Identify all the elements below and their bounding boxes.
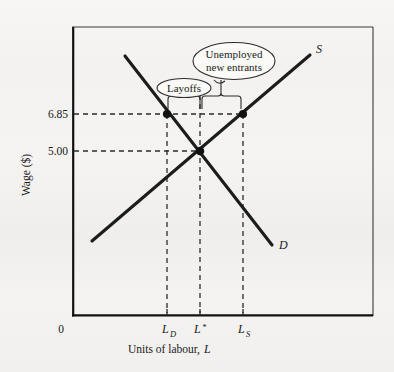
demand-curve-label: D xyxy=(278,238,288,252)
x-axis-title: Units of labour, L xyxy=(128,342,211,356)
point-supply xyxy=(239,110,247,118)
x-tick-label-ld-base: L xyxy=(161,322,169,336)
origin-label: 0 xyxy=(58,323,64,335)
x-tick-label-ls-base: L xyxy=(237,322,245,336)
callout-unemployed-line1: Unemployed xyxy=(206,48,263,60)
x-tick-label-lstar-base: L xyxy=(193,322,201,336)
y-axis-title: Wage ($) xyxy=(20,154,33,196)
x-tick-label-lstar-sub: * xyxy=(202,322,207,332)
callout-layoffs-text: Layoffs xyxy=(167,82,201,94)
callout-unemployed-line2: new entrants xyxy=(206,61,262,73)
point-equilibrium xyxy=(196,147,205,156)
x-tick-label-ld-sub: D xyxy=(169,329,177,339)
x-tick-label-ls: L S xyxy=(237,322,251,339)
y-tick-label-500: 5.00 xyxy=(48,145,68,157)
supply-demand-chart: Layoffs Unemployed new entrants S D 6.85… xyxy=(0,0,394,372)
x-tick-label-lstar: L * xyxy=(193,322,207,336)
x-tick-label-ld: L D xyxy=(161,322,177,339)
x-axis-title-var: L xyxy=(203,342,211,356)
x-axis-title-main: Units of labour, xyxy=(128,343,200,356)
supply-curve-label: S xyxy=(316,42,322,56)
point-layoffs xyxy=(163,110,171,118)
x-tick-label-ls-sub: S xyxy=(246,329,251,339)
figure-container: Layoffs Unemployed new entrants S D 6.85… xyxy=(0,0,394,372)
brace-unemployed xyxy=(202,93,241,109)
leader-unemployed-tail xyxy=(214,80,225,83)
y-tick-label-685: 6.85 xyxy=(48,108,68,120)
